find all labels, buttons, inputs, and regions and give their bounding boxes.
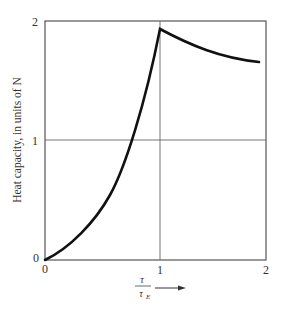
x-axis-label: τ τ E [135,274,186,301]
heat-capacity-curve [45,29,259,260]
y-tick-1: 1 [32,134,38,148]
x-tick-2: 2 [263,263,269,277]
y-tick-2: 2 [32,15,38,29]
y-tick-0: 0 [33,251,39,265]
chart: 2 1 0 0 1 2 Heat capacity, in units of N… [0,0,281,314]
arrow-right-icon [178,286,186,291]
x-label-subscript: E [145,293,151,301]
x-label-numerator: τ [140,274,144,285]
x-label-denominator: τ [139,288,143,299]
y-axis-label: Heat capacity, in units of N [11,76,24,202]
x-tick-0: 0 [42,262,48,276]
x-tick-1: 1 [157,263,163,277]
